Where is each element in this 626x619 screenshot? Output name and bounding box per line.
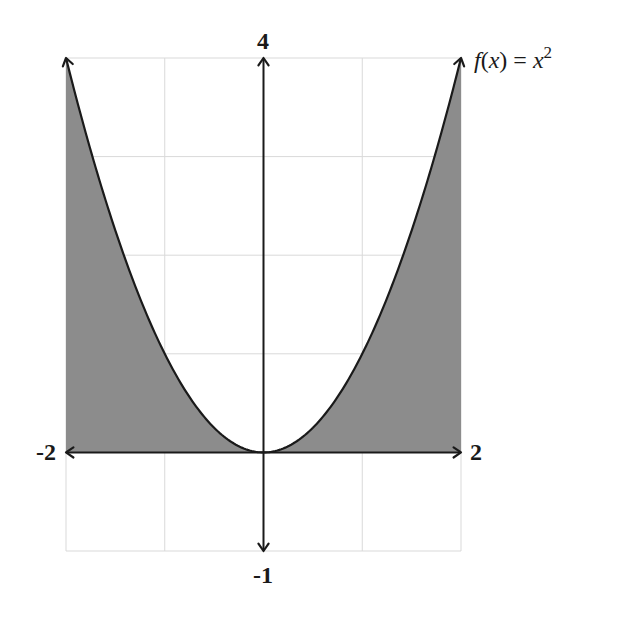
x-min-label: -2 (36, 439, 56, 465)
y-min-label: -1 (253, 562, 273, 588)
func-exponent: 2 (544, 43, 553, 62)
func-x: x (488, 47, 500, 73)
func-x2: x (532, 47, 544, 73)
parabola-chart: 4 -1 -2 2 f(x) = x2 (0, 0, 626, 619)
y-max-label: 4 (257, 28, 269, 54)
function-label: f(x) = x2 (474, 43, 552, 73)
func-paren-close: ) (499, 47, 507, 73)
func-equals: = (507, 47, 533, 73)
x-max-label: 2 (470, 439, 482, 465)
func-paren-open: ( (481, 47, 489, 73)
